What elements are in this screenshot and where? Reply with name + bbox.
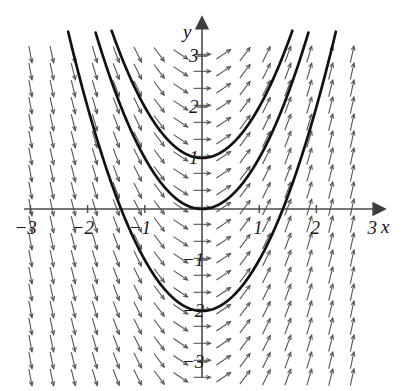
x-tick-label--2: −2 — [72, 218, 94, 237]
slope-arrow — [263, 370, 271, 385]
slope-arrow — [173, 271, 187, 280]
slope-arrow — [240, 218, 250, 232]
slope-arrow — [263, 319, 271, 334]
slope-arrow — [216, 118, 230, 127]
slope-arrow — [154, 201, 164, 215]
y-tick-label-2: 2 — [189, 97, 199, 116]
slope-arrow — [216, 84, 230, 93]
slope-arrow — [134, 64, 142, 79]
slope-arrow — [134, 183, 142, 198]
slope-arrow — [263, 183, 271, 198]
slope-arrow — [154, 303, 164, 317]
slope-arrow — [263, 336, 271, 351]
slope-arrow — [240, 370, 250, 384]
plot-canvas — [0, 0, 402, 391]
slope-arrow — [240, 353, 250, 367]
y-tick-label--2: −2 — [182, 301, 204, 320]
slope-arrow — [154, 218, 164, 232]
slope-arrow — [173, 373, 187, 382]
slope-arrow — [263, 217, 271, 232]
slope-arrow — [173, 220, 187, 229]
slope-arrow — [134, 302, 142, 317]
slope-arrow — [216, 50, 230, 59]
slope-arrow — [240, 235, 250, 249]
slope-arrow — [134, 353, 142, 368]
slope-arrow — [173, 84, 187, 93]
y-tick-label--1: −1 — [182, 250, 204, 269]
slope-arrow — [154, 150, 164, 164]
slope-arrow — [263, 285, 271, 300]
slope-arrow — [134, 115, 142, 130]
slope-arrow — [240, 252, 250, 266]
slope-arrow — [240, 82, 250, 96]
slope-arrow — [216, 339, 230, 348]
slope-arrow — [134, 166, 142, 181]
slope-arrow — [154, 82, 164, 96]
x-tick-label-1: 1 — [253, 218, 263, 237]
slope-arrow — [154, 353, 164, 367]
slope-arrow — [240, 65, 250, 79]
slope-arrow — [263, 353, 271, 368]
slope-arrow — [216, 101, 230, 110]
slope-arrow — [154, 48, 164, 62]
slope-arrow — [173, 288, 187, 297]
slope-arrow — [173, 67, 187, 76]
slope-arrow — [263, 115, 271, 130]
axis-lines — [24, 28, 374, 378]
slope-arrow — [240, 150, 250, 164]
slope-arrow — [173, 101, 187, 110]
x-tick-label--1: −1 — [129, 218, 151, 237]
slope-arrow — [154, 370, 164, 384]
x-tick-label-2: 2 — [310, 218, 320, 237]
slope-arrow — [216, 169, 230, 178]
slope-arrow — [173, 135, 187, 144]
slope-arrow — [263, 166, 271, 181]
y-axis-name: y — [183, 22, 191, 41]
slope-arrow — [173, 322, 187, 331]
slope-arrow — [240, 99, 250, 113]
slope-arrow — [154, 320, 164, 334]
slope-arrow — [240, 320, 250, 334]
slope-arrow — [216, 373, 230, 382]
slope-arrow — [154, 65, 164, 79]
slope-arrow — [173, 339, 187, 348]
slope-arrow — [134, 268, 142, 283]
slope-arrow — [240, 201, 250, 215]
slope-arrow — [134, 47, 142, 62]
slope-arrow — [173, 237, 187, 246]
slope-arrow — [216, 322, 230, 331]
x-tick-label--3: −3 — [14, 218, 36, 237]
slope-arrow — [216, 271, 230, 280]
slope-arrow — [134, 336, 142, 351]
slope-arrow — [173, 186, 187, 195]
slope-arrow — [216, 67, 230, 76]
x-tick-label-3: 3 — [368, 218, 378, 237]
slope-arrow — [216, 356, 230, 365]
slope-arrow — [134, 200, 142, 215]
slope-arrow — [173, 169, 187, 178]
slope-arrow — [154, 99, 164, 113]
slope-arrow — [154, 235, 164, 249]
slope-arrow — [263, 302, 271, 317]
slope-arrow — [216, 220, 230, 229]
slope-arrow — [263, 200, 271, 215]
slope-arrow — [240, 303, 250, 317]
slope-arrow — [240, 337, 250, 351]
slope-arrow — [263, 47, 271, 62]
slope-arrow — [216, 288, 230, 297]
y-tick-label--3: −3 — [182, 352, 204, 371]
slope-arrow — [216, 186, 230, 195]
slope-arrow — [263, 268, 271, 283]
slope-arrow — [154, 252, 164, 266]
slope-arrow — [173, 50, 187, 59]
y-tick-label-1: 1 — [189, 148, 199, 167]
y-tick-label-3: 3 — [189, 46, 199, 65]
slope-arrow — [134, 319, 142, 334]
slope-arrow — [263, 64, 271, 79]
slope-arrow — [173, 118, 187, 127]
x-axis-name: x — [381, 217, 389, 236]
slope-arrow — [134, 370, 142, 385]
slope-arrow — [216, 237, 230, 246]
slope-arrow — [216, 135, 230, 144]
slope-arrow — [216, 254, 230, 263]
